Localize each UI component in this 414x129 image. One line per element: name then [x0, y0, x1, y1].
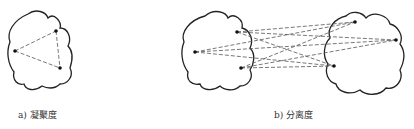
distance-edge	[237, 32, 396, 40]
distance-edge	[56, 31, 60, 68]
panel-separation	[182, 12, 404, 95]
distance-edge	[241, 66, 334, 68]
data-point	[353, 20, 357, 24]
cluster-diagram	[0, 0, 414, 105]
data-point	[193, 50, 197, 54]
data-point	[394, 38, 398, 42]
data-point	[239, 66, 243, 70]
distance-edge	[241, 22, 355, 68]
cluster-outline	[8, 11, 72, 90]
data-point	[13, 49, 17, 53]
caption-separation: b) 分离度	[274, 108, 313, 121]
panel-cohesion	[8, 11, 72, 90]
distance-edge	[237, 22, 355, 32]
data-point	[235, 30, 239, 34]
data-point	[54, 29, 58, 33]
cluster-outline	[182, 12, 254, 90]
data-point	[58, 66, 62, 70]
cluster-outline	[324, 12, 403, 94]
distance-edge	[241, 40, 396, 68]
distance-edge	[15, 51, 60, 68]
distance-edge	[15, 31, 56, 51]
caption-cohesion: a) 凝聚度	[18, 108, 57, 121]
data-point	[332, 64, 336, 68]
